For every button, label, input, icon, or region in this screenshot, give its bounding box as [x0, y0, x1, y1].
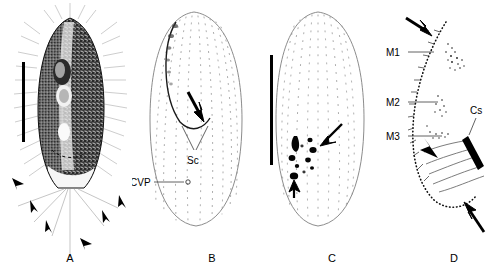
arrowhead-2	[30, 200, 38, 213]
panel-b-graphic: Sc CVP	[132, 0, 266, 270]
panel-label-c: C	[312, 252, 352, 264]
adoral-cilia-ticks-d	[408, 30, 440, 181]
caudal-cilia	[18, 189, 118, 258]
panel-label-b: B	[192, 252, 232, 264]
arrowhead-5	[102, 210, 110, 223]
figure-plate: A	[0, 0, 493, 270]
arrowhead-4	[80, 238, 92, 250]
scale-bar-c	[270, 55, 273, 165]
panel-label-a: A	[50, 252, 90, 264]
membranelle-tufts-d	[426, 43, 464, 139]
label-cvp: CVP	[132, 177, 151, 188]
arrowhead-6	[118, 195, 126, 208]
label-m3: M3	[386, 131, 400, 142]
arrow-d-top	[406, 18, 432, 36]
arrow-d-bottom	[464, 202, 484, 232]
label-sc: Sc	[187, 155, 199, 166]
cs-leader	[469, 118, 476, 135]
panel-c-graphic	[266, 0, 372, 270]
scale-bar-a	[22, 62, 25, 142]
cell-body-a	[30, 10, 114, 196]
panel-c: C	[266, 0, 372, 270]
tuft-m1	[445, 43, 465, 71]
cell-outline-c	[276, 12, 364, 226]
tuft-m2	[434, 95, 446, 117]
panel-d: Cs M1 M2 M3 D	[372, 0, 493, 270]
label-m2: M2	[386, 97, 400, 108]
panel-label-d: D	[434, 252, 474, 264]
arrowhead-3	[45, 220, 52, 233]
panel-b: Sc CVP B	[132, 0, 266, 270]
arrowhead-1	[12, 178, 24, 190]
panel-a: A	[0, 0, 132, 270]
cs-bar	[462, 136, 484, 170]
buccal-striations-d	[424, 140, 484, 192]
panel-a-graphic	[0, 0, 132, 270]
label-cs: Cs	[470, 105, 482, 116]
panel-d-graphic: Cs M1 M2 M3	[372, 0, 493, 270]
label-m1: M1	[386, 47, 400, 58]
tuft-m3	[426, 125, 449, 138]
arrowhead-group-a	[12, 178, 126, 250]
